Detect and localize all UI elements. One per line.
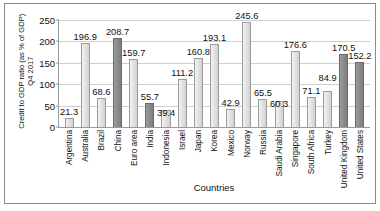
x-axis-category-label: Mexico: [226, 130, 235, 156]
bar-value-label: 65.5: [254, 88, 272, 98]
x-axis-title: Countries: [58, 182, 370, 193]
x-axis-category-label: Russia: [258, 130, 267, 155]
bar-value-label: 71.1: [302, 86, 320, 96]
x-axis-category-label: Japan: [194, 130, 203, 152]
bar-group: 55.7India: [142, 20, 158, 127]
bar: [307, 97, 316, 127]
bar: [178, 79, 187, 127]
x-axis-category-label: Indonesia: [162, 130, 171, 166]
x-axis-category-label: South Africa: [307, 130, 316, 174]
bar-value-label: 55.7: [141, 92, 159, 102]
x-axis-category-label: Norway: [242, 130, 251, 158]
chart-figure: Credit to GDP ratio (as % of GDP) Q4 201…: [0, 0, 380, 211]
bar-value-label: 60.3: [270, 99, 288, 109]
x-axis-category-label: India: [145, 130, 154, 148]
bar: [339, 54, 348, 127]
y-axis-tick-label: 0: [50, 122, 55, 133]
x-axis-category-label: Saudi Arabia: [275, 130, 284, 176]
bar: [210, 44, 219, 127]
y-axis-tick-label: 50: [44, 100, 55, 111]
bar: [194, 58, 203, 127]
bar-value-label: 21.3: [60, 107, 78, 117]
bar-group: 152.2United States: [352, 20, 368, 127]
x-axis-category-label: United Kingdom: [339, 130, 348, 188]
bar-group: 42.9Mexico: [223, 20, 239, 127]
bar: [81, 43, 90, 127]
x-axis-category-label: Turkey: [323, 130, 332, 155]
y-axis-title: Credit to GDP ratio (as % of GDP) Q4 201…: [17, 7, 35, 135]
bar-group: 170.5United Kingdom: [336, 20, 352, 127]
bar-group: 193.1Korea: [206, 20, 222, 127]
bar: [97, 98, 106, 127]
bar-value-label: 68.6: [92, 87, 110, 97]
bar-group: 111.2Israel: [174, 20, 190, 127]
x-axis-category-label: Brazil: [97, 130, 106, 150]
x-axis-category-label: China: [113, 130, 122, 151]
bar: [242, 22, 251, 127]
bar-value-label: 39.4: [157, 108, 175, 118]
y-axis-tick-label: 150: [39, 57, 55, 68]
bar: [226, 109, 235, 127]
bar: [129, 59, 138, 127]
x-axis-category-label: Israel: [178, 130, 187, 150]
bar-group: 196.9Australia: [77, 20, 93, 127]
y-axis-tick-label: 100: [39, 79, 55, 90]
y-axis-tick-label: 200: [39, 36, 55, 47]
y-axis-tick-label: 250: [39, 15, 55, 26]
bar-group: 84.9Turkey: [320, 20, 336, 127]
bar: [113, 38, 122, 127]
bar-group: 176.6Singapore: [287, 20, 303, 127]
x-axis-category-label: Euro area: [129, 130, 138, 166]
bar-group: 65.5Russia: [255, 20, 271, 127]
bar-group: 208.7China: [109, 20, 125, 127]
bar: [145, 103, 154, 127]
bar-value-label: 152.2: [348, 51, 371, 61]
bar: [323, 91, 332, 127]
plot-area: 050100150200250 21.3Argentina196.9Austra…: [58, 20, 370, 128]
bar-group: 159.7Euro area: [126, 20, 142, 127]
bar-group: 71.1South Africa: [303, 20, 319, 127]
bar: [355, 62, 364, 127]
x-axis-category-label: United States: [355, 130, 364, 179]
x-axis-category-label: Korea: [210, 130, 219, 152]
x-axis-category-label: Argentina: [65, 130, 74, 165]
x-axis-category-label: Singapore: [291, 130, 300, 167]
bar-group: 245.6Norway: [239, 20, 255, 127]
x-axis-category-label: Australia: [81, 130, 90, 162]
bar: [291, 51, 300, 127]
bar-group: 60.3Saudi Arabia: [271, 20, 287, 127]
bar: [65, 118, 74, 127]
bar: [258, 99, 267, 127]
bar-value-label: 84.9: [319, 73, 337, 83]
bar-value-label: 42.9: [222, 98, 240, 108]
bar-series: 21.3Argentina196.9Australia68.6Brazil208…: [59, 20, 370, 127]
